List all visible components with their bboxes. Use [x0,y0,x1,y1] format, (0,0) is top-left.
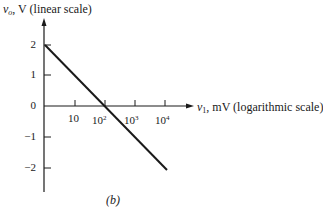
x-axis-arrow-icon [186,104,194,109]
x-tick-label-1000: 103 [124,113,139,126]
y-tick-label-0: 0 [16,100,36,111]
x-tick-label-10: 10 [68,113,79,124]
y-tick-label-neg1: −1 [16,131,36,142]
y-axis-label: vo, V (linear scale) [3,3,92,19]
y-axis-arrow-icon [42,18,47,26]
data-line [45,45,167,170]
y-tick-label-2: 2 [16,39,36,50]
y-tick-label-neg2: −2 [16,162,36,173]
y-tick-label-1: 1 [16,69,36,80]
x-tick-label-10000: 104 [155,113,170,126]
x-ticks [75,100,165,106]
figure-caption: (b) [106,194,120,206]
x-tick-label-100: 102 [92,113,107,126]
x-axis-label: v1, mV (logarithmic scale) [197,101,323,117]
